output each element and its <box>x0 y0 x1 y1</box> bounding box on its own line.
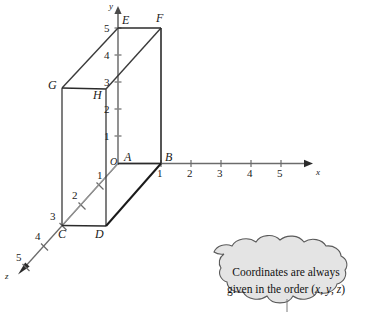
y-axis-arrow <box>114 6 121 14</box>
x-tick-label-1: 1 <box>157 168 163 179</box>
x-tick-label-3: 3 <box>217 168 223 179</box>
edge-F-H <box>106 28 161 89</box>
x-tick-label-4: 4 <box>247 168 253 179</box>
vertex-label-B: B <box>165 151 172 163</box>
vertex-label-E: E <box>122 14 129 26</box>
callout-line-2-suffix: ) <box>341 283 345 295</box>
z-tick-label-3: 3 <box>50 211 56 222</box>
z-tick-label-4: 4 <box>35 231 41 242</box>
x-axis-arrow <box>304 160 313 168</box>
callout-line-2: given in the order (x, y, z) <box>208 281 364 298</box>
vertex-label-G: G <box>48 79 57 91</box>
edge-C-D <box>62 226 106 227</box>
vertex-label-F: F <box>156 12 163 24</box>
y-tick-label-1: 1 <box>104 131 110 142</box>
y-tick-label-3: 3 <box>104 77 110 88</box>
figure-canvas: y x z 1 2 3 4 5 1 2 3 4 5 1 2 3 4 5 O A … <box>0 0 381 315</box>
vertex-label-H: H <box>93 89 102 101</box>
vertex-label-O: O <box>110 157 117 167</box>
callout-line-1: Coordinates are always <box>208 264 364 281</box>
edge-O-C <box>62 164 118 226</box>
vertex-label-D: D <box>95 228 104 240</box>
y-axis-label: y <box>109 2 113 11</box>
y-tick-label-5: 5 <box>104 23 110 34</box>
z-axis-label: z <box>5 272 9 281</box>
y-tick-label-2: 2 <box>104 104 110 115</box>
vertex-label-A: A <box>124 151 131 163</box>
edge-D-B <box>106 164 161 227</box>
z-tick-label-2: 2 <box>72 190 78 201</box>
callout-line-2-prefix: given in the order ( <box>227 283 315 295</box>
x-axis-label: x <box>316 168 320 177</box>
z-tick-label-5: 5 <box>16 252 22 263</box>
callout-text: Coordinates are always given in the orde… <box>208 264 364 297</box>
y-tick-label-4: 4 <box>104 50 110 61</box>
x-tick-label-2: 2 <box>187 168 193 179</box>
z-tick-label-1: 1 <box>97 170 103 181</box>
vertex-label-C: C <box>58 228 66 240</box>
x-tick-label-5: 5 <box>277 168 283 179</box>
